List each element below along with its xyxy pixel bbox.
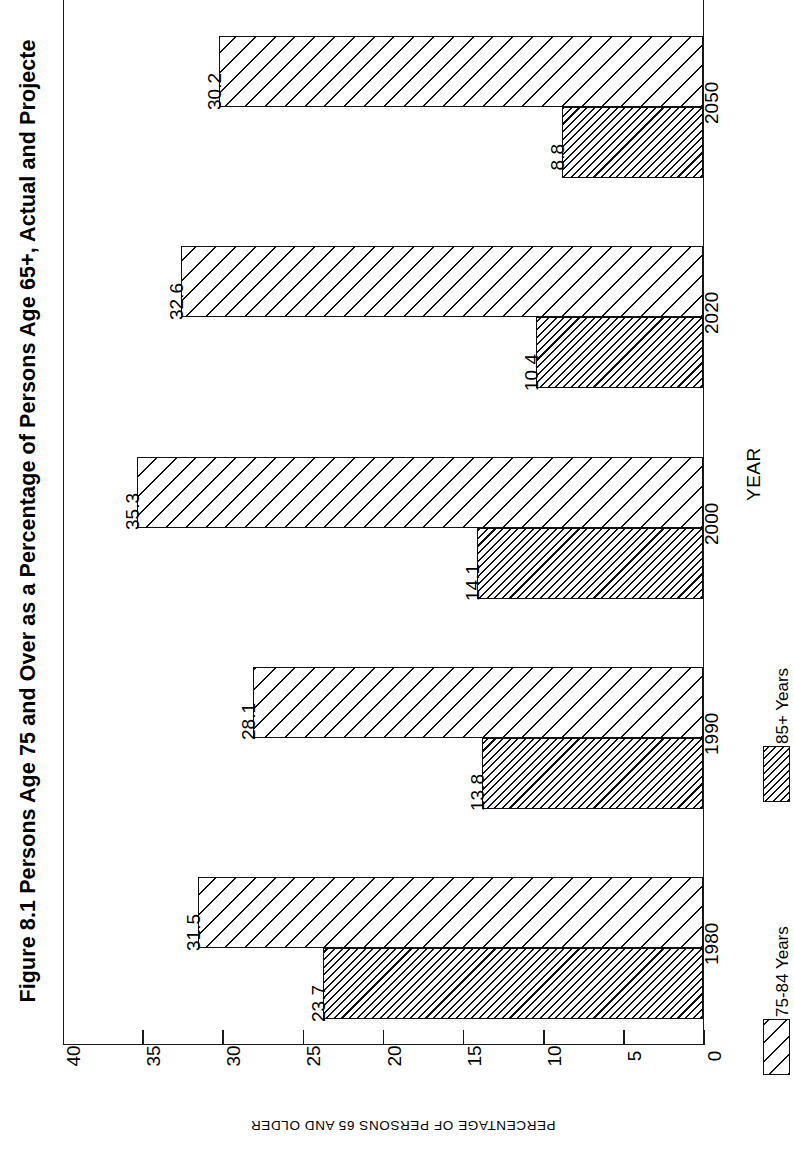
value-axis-tick-label: 20 xyxy=(384,1033,406,1079)
legend-swatch-85-years xyxy=(763,746,790,802)
bar-value-label: 8.8 xyxy=(547,144,569,204)
value-axis-tick-label: 10 xyxy=(544,1033,566,1079)
bar-2050-75-84-years xyxy=(198,877,703,948)
bar-1980-75-84-years xyxy=(219,36,703,107)
bar-value-label: 10.4 xyxy=(521,354,543,414)
bar-value-label: 13.8 xyxy=(467,774,489,834)
bar-2000-75-84-years xyxy=(137,457,703,528)
bar-value-label: 32.6 xyxy=(166,283,188,343)
value-axis-tick-label: 15 xyxy=(464,1033,486,1079)
bar-1990-85-years xyxy=(536,317,703,388)
bar-value-label: 30.2 xyxy=(204,73,226,133)
value-axis-tick-label: 0 xyxy=(704,1033,726,1079)
bar-value-label: 35.3 xyxy=(122,493,144,553)
bar-2020-85-years xyxy=(482,738,703,809)
page-title: Figure 8.1 Persons Age 75 and Over as a … xyxy=(16,43,41,1003)
value-axis-tick-label: 30 xyxy=(223,1033,245,1079)
category-label-1990: 1990 xyxy=(701,713,723,755)
category-label-2000: 2000 xyxy=(701,502,723,544)
legend-label: 75-84 Years xyxy=(773,926,793,1017)
bar-1990-75-84-years xyxy=(181,246,703,317)
plot-area: 30.28.832.610.435.314.128.113.831.523.7 xyxy=(63,0,704,1045)
bar-2050-85-years xyxy=(323,948,703,1019)
bar-1980-85-years xyxy=(562,107,703,178)
bar-2020-75-84-years xyxy=(253,667,703,738)
category-axis-title: YEAR xyxy=(743,447,765,501)
value-axis-tick-label: 5 xyxy=(624,1033,646,1079)
bar-value-label: 14.1 xyxy=(462,564,484,624)
legend-swatch-75-84-years xyxy=(763,1019,790,1075)
category-label-1980: 1980 xyxy=(701,923,723,965)
category-label-2020: 2020 xyxy=(701,292,723,334)
value-axis-tick-label: 25 xyxy=(303,1033,325,1079)
category-label-2050: 2050 xyxy=(701,82,723,124)
bar-value-label: 31.5 xyxy=(183,914,205,974)
value-axis-tick-label: 40 xyxy=(63,1033,85,1079)
bar-value-label: 28.1 xyxy=(238,703,260,763)
legend-label: 85+ Years xyxy=(773,668,793,744)
value-axis-title: PERCENTAGE OF PERSONS 65 AND OLDER xyxy=(133,1118,673,1133)
bar-2000-85-years xyxy=(477,528,703,599)
bars-layer: 30.28.832.610.435.314.128.113.831.523.7 xyxy=(64,0,703,1044)
value-axis-tick-label: 35 xyxy=(143,1033,165,1079)
